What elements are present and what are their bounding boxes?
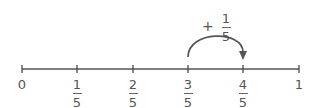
denominator: 5 bbox=[239, 95, 247, 108]
numerator: 2 bbox=[129, 77, 137, 92]
jump-denominator: 5 bbox=[222, 29, 230, 44]
fraction-bar bbox=[222, 27, 231, 28]
numerator: 1 bbox=[73, 77, 81, 92]
tick-label-5: 1 bbox=[289, 78, 309, 91]
arrow-head-icon bbox=[239, 51, 247, 60]
denominator: 5 bbox=[184, 95, 192, 108]
tick-label-0: 0 bbox=[12, 78, 32, 91]
number-line-graphic bbox=[0, 0, 319, 108]
fraction-bar bbox=[184, 93, 193, 94]
denominator: 5 bbox=[129, 95, 137, 108]
fraction-bar bbox=[73, 93, 82, 94]
numerator: 3 bbox=[184, 77, 192, 92]
fraction-bar bbox=[239, 93, 248, 94]
numerator: 4 bbox=[239, 77, 247, 92]
plus-sign: + bbox=[202, 18, 214, 34]
tick-label-2: 2 5 bbox=[123, 78, 143, 108]
tick-label-4: 4 5 bbox=[233, 78, 253, 108]
fraction-bar bbox=[129, 93, 138, 94]
jump-label: + 1 5 bbox=[202, 11, 242, 37]
tick-label-1: 1 5 bbox=[67, 78, 87, 108]
tick-label-3: 3 5 bbox=[178, 78, 198, 108]
denominator: 5 bbox=[73, 95, 81, 108]
jump-numerator: 1 bbox=[222, 11, 230, 26]
jump-fraction: 1 5 bbox=[216, 12, 236, 43]
